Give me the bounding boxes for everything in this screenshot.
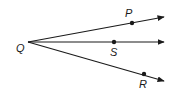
point-s-dot [112,40,116,44]
label-s: S [110,46,118,58]
label-q: Q [16,42,25,54]
label-p: P [125,7,133,19]
ray-qp [28,17,164,42]
point-p-dot [130,21,134,25]
ray-diagram: Q P S R [0,0,174,101]
label-r: R [139,78,147,90]
point-r-dot [142,72,146,76]
